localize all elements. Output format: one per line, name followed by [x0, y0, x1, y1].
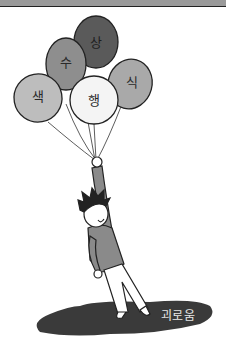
balloon-label-sang: 상 — [90, 36, 102, 49]
balloons — [10, 16, 158, 126]
man — [78, 157, 150, 318]
balloon-label-sik: 식 — [126, 76, 138, 89]
balloon-label-saek: 색 — [32, 90, 44, 103]
shadow-label: 괴로움 — [161, 310, 196, 322]
balloon-label-su: 수 — [60, 56, 72, 69]
balloon-label-haeng: 행 — [88, 94, 100, 107]
illustration — [0, 0, 226, 350]
